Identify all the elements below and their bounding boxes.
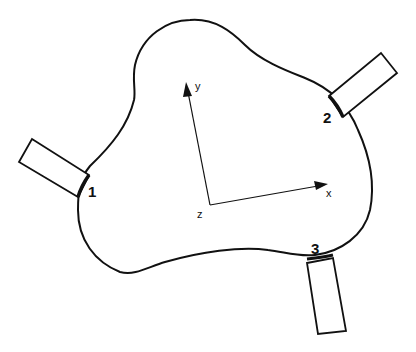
port-1-label: 1	[88, 183, 96, 200]
diagram-canvas: y x z 1 2 3	[0, 0, 416, 352]
x-axis-label: x	[326, 187, 332, 199]
port-1-waveguide	[19, 139, 89, 197]
y-axis-label: y	[195, 80, 201, 92]
port-3-waveguide	[307, 258, 346, 334]
port-2-label: 2	[323, 109, 331, 126]
x-axis	[210, 186, 318, 205]
z-axis-label: z	[197, 208, 203, 220]
port-3-label: 3	[311, 240, 319, 257]
y-axis-arrowhead	[183, 82, 192, 97]
device-outline	[78, 20, 372, 273]
y-axis	[188, 92, 210, 205]
